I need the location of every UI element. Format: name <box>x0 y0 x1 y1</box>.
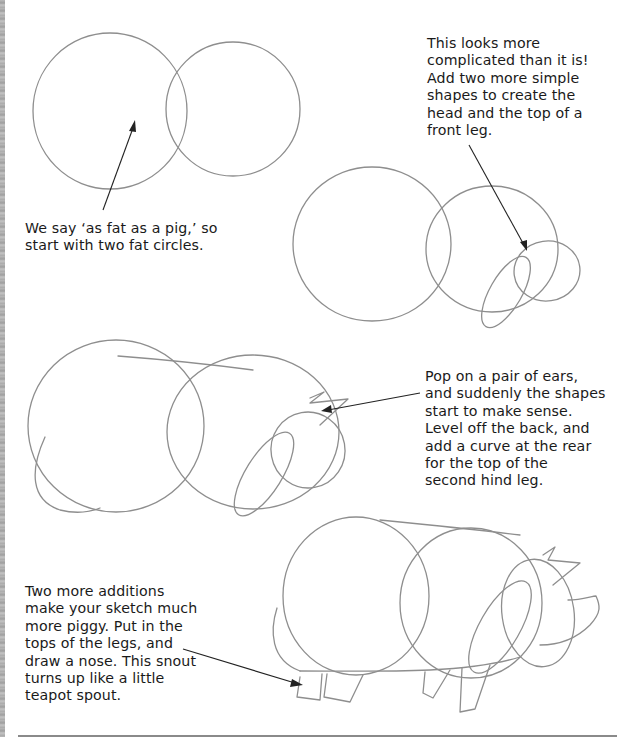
front-leg-oval <box>223 424 304 524</box>
step1-sketch <box>33 33 300 210</box>
body-circle-front <box>400 528 542 678</box>
step1-caption: We say ‘as fat as a pig,’ so start with … <box>25 220 217 255</box>
back-line <box>380 520 520 535</box>
step2-arrow <box>469 145 524 245</box>
step2-caption: This looks more complicated than it is! … <box>427 35 589 139</box>
step3-arrow <box>328 393 420 410</box>
rear-hind-leg-curve <box>35 437 100 512</box>
rear-hind-leg-curve <box>273 608 300 671</box>
back-line <box>118 356 253 370</box>
body-circle-front <box>166 42 300 176</box>
step4-sketch <box>183 517 599 712</box>
step3-caption: Pop on a pair of ears, and suddenly the … <box>425 368 605 490</box>
body-circle-rear <box>283 517 429 675</box>
body-circle-front <box>167 355 339 509</box>
step2-arrowhead <box>520 240 527 251</box>
belly-line <box>300 657 520 671</box>
step3-arrowhead <box>321 405 332 413</box>
head-circle <box>510 237 584 306</box>
step2-sketch <box>293 145 584 335</box>
body-circle-front <box>426 186 558 312</box>
ears <box>543 547 580 585</box>
body-circle-rear <box>28 340 204 512</box>
front-leg-oval <box>472 249 540 334</box>
front-leg-oval <box>457 572 544 682</box>
body-circle-rear <box>33 33 187 189</box>
front-leg-back <box>423 670 450 698</box>
step4-caption: Two more additions make your sketch much… <box>25 583 197 705</box>
snout <box>540 596 599 645</box>
body-circle-rear <box>293 167 451 321</box>
hind-leg-front <box>324 674 363 702</box>
step1-arrow <box>103 128 133 210</box>
hind-leg-back <box>297 674 322 700</box>
step4-arrowhead <box>290 679 303 687</box>
step1-arrowhead <box>129 120 136 132</box>
step3-sketch <box>28 340 420 524</box>
